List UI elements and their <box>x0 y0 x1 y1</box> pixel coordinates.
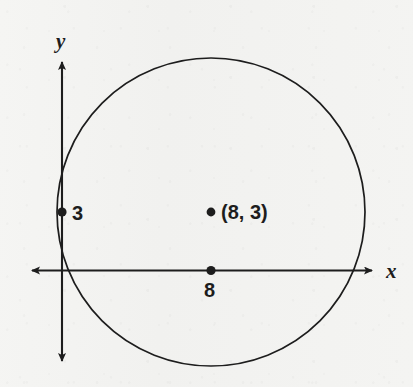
circle-diagram-figure: y x 3 8 (8, 3) <box>0 0 413 387</box>
point-y-intercept-dot <box>57 207 66 216</box>
point-center-dot <box>207 208 216 217</box>
x-intercept-label: 8 <box>204 280 215 300</box>
center-coordinate-label: (8, 3) <box>221 202 268 222</box>
x-axis-label: x <box>386 261 397 282</box>
y-intercept-label: 3 <box>72 203 83 223</box>
y-axis-label: y <box>56 31 65 52</box>
point-x-intercept-dot <box>206 266 215 275</box>
diagram-canvas <box>0 0 413 387</box>
